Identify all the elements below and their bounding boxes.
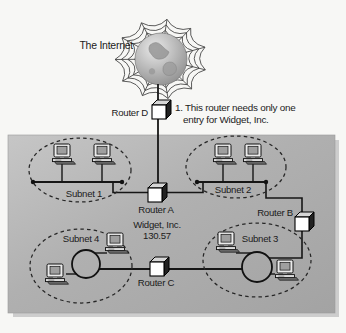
internet-globe-icon: [135, 33, 187, 85]
bus-terminator: [264, 180, 268, 184]
router-d-label: Router D: [112, 107, 149, 118]
router-a-label: Router A: [138, 204, 174, 215]
subnet1-label: Subnet 1: [66, 188, 102, 199]
subnet3-label: Subnet 3: [242, 233, 278, 244]
company-network-number: 130.57: [143, 230, 171, 241]
annotation-line2: entry for Widget, Inc.: [183, 114, 269, 125]
internet-label: The Internet: [79, 39, 133, 51]
network-diagram: The Internet Router D 1. This router nee…: [0, 0, 346, 333]
router-b-icon: [295, 212, 314, 231]
subnet4-label: Subnet 4: [63, 233, 100, 244]
router-c-label: Router C: [138, 277, 175, 288]
subnet2-label: Subnet 2: [215, 184, 251, 195]
company-name-label: Widget, Inc.: [133, 219, 181, 230]
router-b-label: Router B: [257, 207, 293, 218]
router-d-icon: [152, 100, 171, 119]
annotation-line1: 1. This router needs only one: [175, 102, 296, 113]
router-c-icon: [150, 257, 169, 276]
bus-terminator: [120, 180, 124, 184]
router-a-icon: [148, 183, 167, 202]
bus-terminator: [195, 180, 199, 184]
